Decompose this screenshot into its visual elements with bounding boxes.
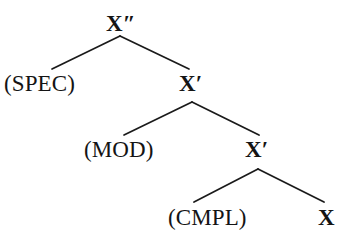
x-bar-syntax-tree: X″ (SPEC) X′ (MOD) X′ (CMPL) X	[0, 0, 356, 251]
branch-xbar1-to-mod	[124, 102, 192, 135]
node-mod: (MOD)	[84, 138, 154, 161]
branch-xbar2-to-head	[258, 169, 324, 202]
node-x-head: X	[318, 206, 335, 229]
branch-xbar1-to-xbar2	[192, 102, 259, 135]
node-cmpl: (CMPL)	[168, 206, 247, 229]
node-x-double-prime: X″	[106, 12, 136, 35]
node-spec: (SPEC)	[4, 72, 75, 95]
node-x-prime-upper: X′	[179, 72, 202, 95]
branch-root-to-spec	[52, 36, 120, 69]
node-x-prime-lower: X′	[245, 138, 268, 161]
branch-root-to-xbar1	[120, 36, 189, 69]
branch-xbar2-to-cmpl	[194, 169, 258, 202]
